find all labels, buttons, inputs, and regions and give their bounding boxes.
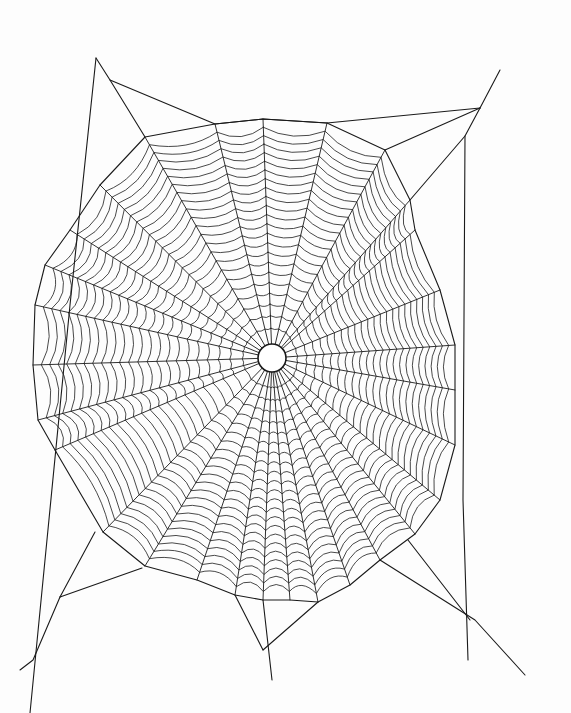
- spider-web-drawing: [0, 0, 571, 713]
- web-spiral-threads: [41, 127, 448, 593]
- web-hub: [258, 344, 286, 372]
